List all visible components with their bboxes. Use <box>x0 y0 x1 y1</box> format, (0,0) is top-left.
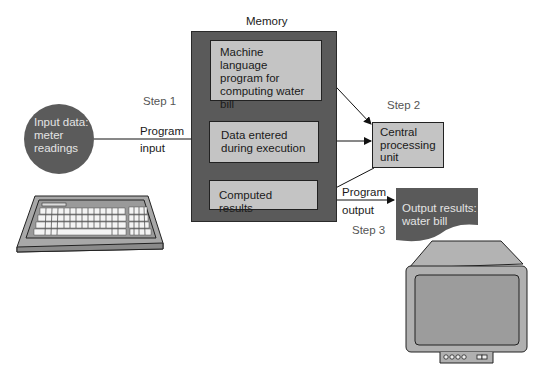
program-output-label-1: Program <box>342 185 386 199</box>
step-1-label: Step 1 <box>143 95 176 107</box>
monitor-icon <box>406 241 527 363</box>
program-box-line: computing water <box>220 85 312 98</box>
step-3-label: Step 3 <box>352 224 385 236</box>
cpu-box: Central processing unit <box>372 122 444 168</box>
program-output-label-2: output <box>342 203 374 217</box>
output-line: Output results: <box>402 202 477 215</box>
results-box-label: Computed results <box>219 189 308 215</box>
cpu-line: unit <box>380 151 436 164</box>
output-results-text: Output results: water bill <box>402 202 477 228</box>
program-input-label-1: Program <box>140 124 184 138</box>
data-box-line: Data entered <box>221 129 307 142</box>
data-box: Data entered during execution <box>209 121 319 163</box>
program-box-line: Machine language <box>220 46 312 72</box>
step-2-label: Step 2 <box>387 99 420 111</box>
data-box-line: during execution <box>221 142 307 155</box>
input-line: readings <box>34 142 94 155</box>
input-line: meter <box>34 129 94 142</box>
cpu-line: processing <box>380 139 436 152</box>
program-box-line: program for <box>220 72 312 85</box>
program-box-line: bill <box>220 98 312 111</box>
program-input-label-2: input <box>140 141 165 155</box>
program-box: Machine language program for computing w… <box>210 40 322 101</box>
cpu-line: Central <box>380 126 436 139</box>
input-data-circle: Input data: meter readings <box>24 104 94 174</box>
keyboard-icon <box>17 196 163 252</box>
input-line: Input data: <box>34 116 94 129</box>
results-box: Computed results <box>209 180 318 210</box>
output-line: water bill <box>402 215 477 228</box>
memory-title: Memory <box>246 14 288 28</box>
